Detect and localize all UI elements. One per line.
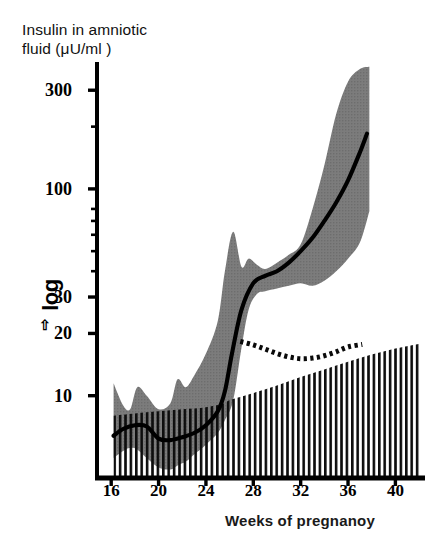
plot-area	[0, 0, 432, 554]
chart-figure: Insulin in amniotic fluid (μU/ml ) log ⇧…	[0, 0, 432, 554]
dotted-curve	[240, 341, 362, 358]
